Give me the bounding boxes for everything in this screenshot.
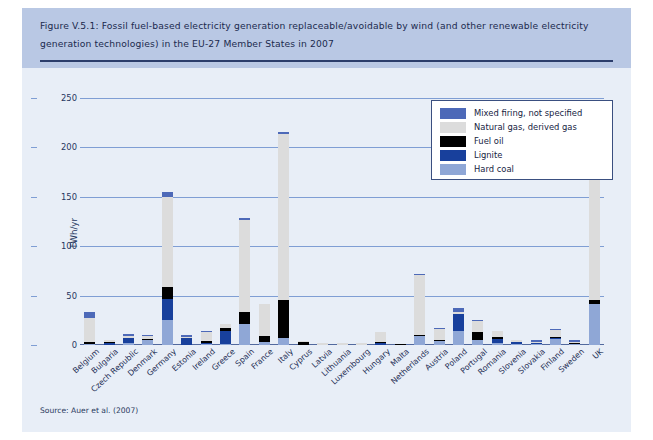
bar-column[interactable]: [201, 331, 212, 345]
bar-segment: [123, 338, 134, 343]
y-tick-mark: [31, 345, 37, 346]
bar-segment: [84, 318, 95, 342]
y-tick-mark: [31, 246, 37, 247]
legend-swatch: [440, 150, 466, 161]
title-divider: [40, 60, 613, 62]
bar-column[interactable]: [453, 308, 464, 345]
bar-column[interactable]: [375, 332, 386, 345]
bar-column[interactable]: [356, 344, 367, 346]
y-tick-mark: [31, 98, 37, 99]
bar-segment: [162, 320, 173, 345]
bar-segment: [278, 134, 289, 300]
bar-segment: [472, 321, 483, 332]
bar-segment: [453, 312, 464, 314]
legend-swatch: [440, 136, 466, 147]
bar-column[interactable]: [511, 341, 522, 345]
bar-column[interactable]: [239, 218, 250, 345]
bar-column[interactable]: [531, 341, 542, 345]
bar-segment: [492, 337, 503, 339]
y-axis-label: TWh/yr: [69, 218, 79, 249]
y-tick-label: 250: [37, 93, 77, 103]
bar-segment: [375, 343, 386, 345]
bar-segment: [239, 324, 250, 345]
bar-segment: [123, 336, 134, 338]
bar-segment: [492, 339, 503, 343]
bar-segment: [84, 342, 95, 344]
plot-region: 050100150200250 TWh/yr BelgiumBulgariaCz…: [22, 68, 631, 403]
figure-panel: Figure V.5.1: Fossil fuel-based electric…: [22, 8, 631, 432]
legend-label: Natural gas, derived gas: [474, 121, 577, 134]
legend-label: Hard coal: [474, 163, 514, 176]
y-tick-mark: [31, 147, 37, 148]
legend-label: Lignite: [474, 149, 502, 162]
bar-column[interactable]: [317, 343, 328, 345]
figure-page: Figure V.5.1: Fossil fuel-based electric…: [0, 0, 653, 440]
bar-segment: [337, 343, 348, 345]
bar-column[interactable]: [123, 335, 134, 345]
bar-segment: [550, 339, 561, 345]
bar-column[interactable]: [395, 344, 406, 346]
bar-segment: [492, 331, 503, 337]
bar-segment: [84, 312, 95, 318]
bar-column[interactable]: [472, 320, 483, 345]
bar-segment: [414, 336, 425, 345]
bar-segment: [259, 342, 270, 345]
y-tick-label: 150: [37, 192, 77, 202]
bar-column[interactable]: [142, 335, 153, 345]
bar-column[interactable]: [550, 330, 561, 345]
bar-column[interactable]: [181, 336, 192, 345]
bar-column[interactable]: [434, 328, 445, 345]
bar-column[interactable]: [259, 304, 270, 345]
legend-label: Fuel oil: [474, 135, 504, 148]
bar-segment: [492, 343, 503, 345]
bar-segment: [142, 336, 153, 339]
bar-segment: [453, 308, 464, 312]
bar-column[interactable]: [298, 342, 309, 345]
bar-column[interactable]: [337, 343, 348, 345]
bar-segment: [298, 341, 309, 342]
bar-segment: [511, 342, 522, 344]
bar-segment: [317, 343, 328, 344]
bar-segment: [278, 132, 289, 133]
bar-segment: [259, 336, 270, 342]
bar-segment: [123, 343, 134, 345]
bar-column[interactable]: [84, 312, 95, 345]
bar-column[interactable]: [492, 331, 503, 345]
y-tick-mark: [31, 197, 37, 198]
bar-segment: [414, 275, 425, 335]
bar-segment: [162, 299, 173, 321]
bar-segment: [104, 343, 115, 345]
bar-segment: [569, 343, 580, 344]
bar-column[interactable]: [278, 133, 289, 345]
bar-segment: [220, 328, 231, 331]
figure-title: Figure V.5.1: Fossil fuel-based electric…: [40, 17, 615, 52]
bar-segment: [278, 300, 289, 339]
y-tick-label: 50: [37, 291, 77, 301]
bar-segment: [298, 342, 309, 345]
bar-column[interactable]: [220, 324, 231, 345]
bar-segment: [550, 330, 561, 337]
bar-segment: [356, 343, 367, 344]
bar-segment: [220, 331, 231, 344]
bar-column[interactable]: [104, 340, 115, 345]
bar-segment: [414, 274, 425, 275]
bar-segment: [239, 312, 250, 324]
bar-segment: [201, 332, 212, 341]
bar-segment: [453, 314, 464, 331]
bar-column[interactable]: [414, 274, 425, 345]
bar-column[interactable]: [162, 192, 173, 345]
bar-segment: [531, 340, 542, 341]
bar-column[interactable]: [569, 341, 580, 345]
legend-swatch: [440, 164, 466, 175]
bar-segment: [162, 197, 173, 287]
y-tick-label: 0: [37, 340, 77, 350]
x-axis-labels: BelgiumBulgariaCzech RepublicDenmarkGerm…: [80, 347, 604, 403]
bar-segment: [472, 320, 483, 321]
bar-segment: [162, 287, 173, 299]
bar-segment: [589, 300, 600, 304]
bar-segment: [220, 324, 231, 328]
bar-segment: [434, 341, 445, 345]
bar-segment: [453, 331, 464, 345]
bar-segment: [239, 220, 250, 313]
bar-segment: [181, 338, 192, 345]
